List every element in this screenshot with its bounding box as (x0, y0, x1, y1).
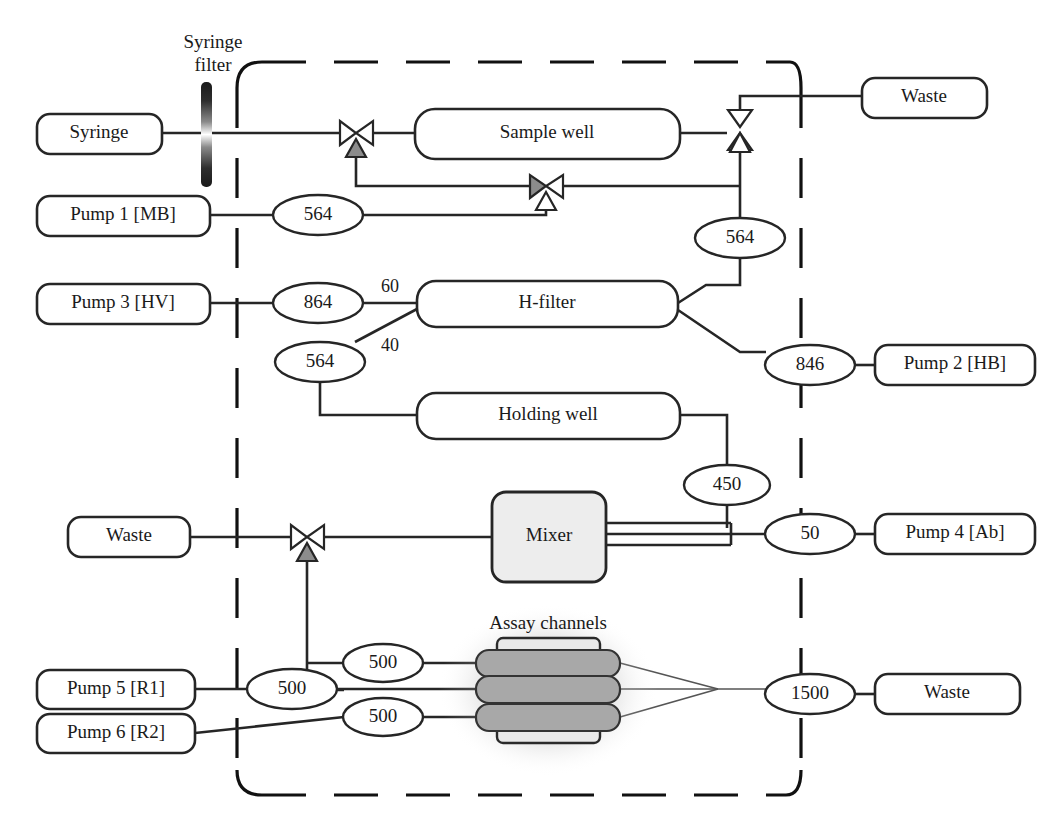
label-volume-right564: 564 (726, 226, 755, 247)
diagram-canvas: Syringe Pump 1 [MB] Pump 3 [HV] Sample w… (0, 0, 1052, 838)
label-pump2: Pump 2 [HB] (904, 352, 1006, 373)
label-split-40: 40 (381, 335, 399, 355)
valve-mb-line[interactable] (530, 175, 563, 210)
pipe-pump6-to-500c (195, 717, 344, 733)
pipe-holding-to-450 (680, 415, 727, 465)
label-volume-pump1: 564 (304, 203, 333, 224)
valve-waste-mid[interactable] (291, 525, 324, 561)
valve-sample-in[interactable] (340, 121, 373, 157)
assay-channel-1[interactable] (476, 650, 620, 677)
label-volume-pump3: 864 (304, 291, 333, 312)
syringe-filter-icon (201, 82, 212, 187)
label-volume-pump4: 50 (801, 522, 820, 543)
label-pump6: Pump 6 [R2] (67, 721, 165, 742)
label-syringe-filter-line1: Syringe (183, 31, 242, 52)
label-volume-pump2: 846 (796, 353, 825, 374)
label-pump4: Pump 4 [Ab] (905, 521, 1004, 542)
label-sample-well: Sample well (500, 121, 594, 142)
label-h-filter: H-filter (519, 291, 577, 312)
pipe-hfilter-to-846 (678, 310, 766, 352)
assay-channel-2[interactable] (476, 676, 620, 703)
label-waste-bot: Waste (924, 681, 970, 702)
label-pump1: Pump 1 [MB] (70, 203, 176, 224)
flow-diagram-svg: Syringe Pump 1 [MB] Pump 3 [HV] Sample w… (0, 0, 1052, 838)
pipe-hfilter-to-564right (678, 258, 740, 303)
label-waste-mid: Waste (106, 524, 152, 545)
assay-channel-3[interactable] (476, 704, 620, 731)
label-syringe: Syringe (69, 121, 128, 142)
label-volume-r1: 500 (278, 677, 307, 698)
pipe-564-to-midvalve (363, 201, 546, 215)
valve-sample-out[interactable] (728, 110, 752, 152)
pipe-valve-stem-to-500 (307, 554, 344, 690)
label-volume-assay-a: 500 (369, 651, 398, 672)
label-volume-waste1500: 1500 (791, 682, 829, 703)
label-assay-channels: Assay channels (489, 612, 607, 633)
label-volume-holding450: 450 (713, 473, 742, 494)
label-waste-top: Waste (901, 85, 947, 106)
label-pump5: Pump 5 [R1] (67, 677, 165, 698)
label-syringe-filter-line2: filter (195, 54, 233, 75)
label-mixer: Mixer (526, 524, 573, 545)
label-volume-hfilter564: 564 (306, 350, 335, 371)
label-pump3: Pump 3 [HV] (71, 291, 174, 312)
label-split-60: 60 (381, 276, 399, 296)
label-holding-well: Holding well (498, 403, 598, 424)
label-volume-assay-c: 500 (369, 705, 398, 726)
